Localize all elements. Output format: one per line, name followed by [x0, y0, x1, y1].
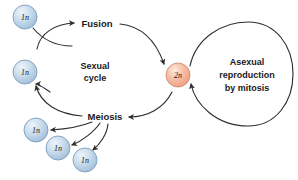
life-cycle-canvas: Fusion Meiosis Sexual cycle Asexual repr… — [0, 0, 298, 180]
cell-label: 1n — [32, 126, 40, 135]
sexual-cycle-arc-zygote-to-meiosis — [129, 92, 172, 117]
sexual-cycle-arc-fusion-to-zygote — [120, 24, 164, 64]
cell-label: 1n — [54, 144, 62, 153]
region-label-asexual-line3: by mitosis — [225, 83, 270, 93]
cell-spore-lower-left: 1n — [24, 118, 48, 142]
cell-label: 1n — [21, 68, 29, 77]
life-cycle-diagram: Fusion Meiosis Sexual cycle Asexual repr… — [0, 0, 298, 180]
arrow-meiosis-to-spore-left — [51, 122, 92, 130]
cell-gamete-mid-left: 1n — [13, 60, 37, 84]
region-label-sexual-cycle-line1: Sexual — [80, 61, 109, 71]
cell-label: 2n — [174, 71, 182, 80]
sexual-cycle-arc-meiosis-to-gamete — [36, 86, 82, 116]
region-label-asexual-line1: Asexual — [230, 57, 265, 67]
cell-gamete-top-left: 1n — [13, 5, 37, 29]
sexual-cycle-arc-to-fusion — [37, 23, 74, 49]
region-label-asexual-line2: reproduction — [219, 70, 275, 80]
cell-label: 1n — [21, 13, 29, 22]
stage-label-fusion: Fusion — [81, 18, 112, 29]
cell-zygote-diploid: 2n — [166, 63, 190, 87]
arrow-meiosis-to-spore-right — [93, 124, 108, 150]
cell-label: 1n — [81, 156, 89, 165]
cell-spore-lower-right: 1n — [73, 148, 97, 172]
cell-spore-lower-mid: 1n — [46, 136, 70, 160]
region-label-sexual-cycle-line2: cycle — [84, 73, 107, 83]
stage-label-meiosis: Meiosis — [88, 111, 123, 122]
